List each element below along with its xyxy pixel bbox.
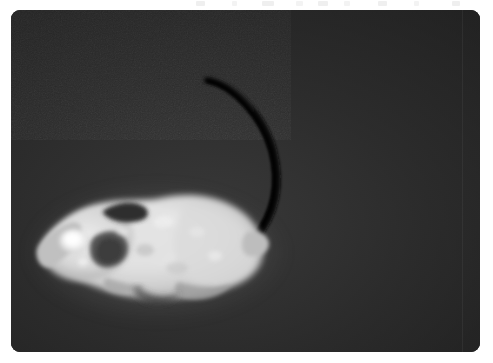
rump — [242, 232, 269, 257]
artifact-mark — [414, 1, 419, 6]
artifact-mark — [452, 1, 460, 6]
artifact-mark — [232, 1, 237, 6]
top-edge-artifacts — [0, 0, 493, 10]
artifact-mark — [196, 1, 205, 6]
artifact-mark — [318, 1, 328, 6]
eye — [59, 229, 89, 253]
subject-layer — [11, 10, 480, 352]
photo-panel — [11, 10, 480, 352]
nose-highlight — [78, 258, 88, 266]
page-root — [0, 0, 493, 363]
mouse-figure — [11, 10, 480, 352]
artifact-mark — [344, 1, 350, 6]
artifact-mark — [296, 1, 303, 6]
artifact-mark — [378, 1, 387, 6]
artifact-mark — [262, 1, 274, 6]
